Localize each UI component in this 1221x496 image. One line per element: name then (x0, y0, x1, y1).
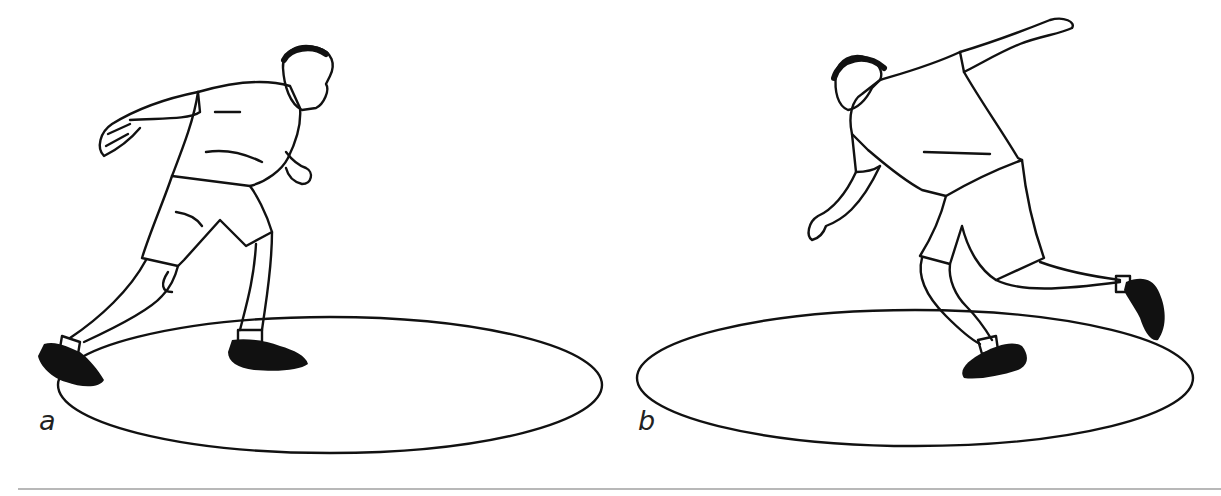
panel-label-b: b (638, 405, 655, 436)
athlete-figure-a (60, 46, 333, 354)
panel-label-a: a (39, 405, 56, 436)
figure-illustration (0, 0, 1221, 496)
athlete-figure-b (809, 19, 1130, 354)
bottom-divider (18, 488, 1221, 490)
throwing-circle-a (58, 317, 602, 453)
throwing-circle-b (637, 310, 1193, 446)
